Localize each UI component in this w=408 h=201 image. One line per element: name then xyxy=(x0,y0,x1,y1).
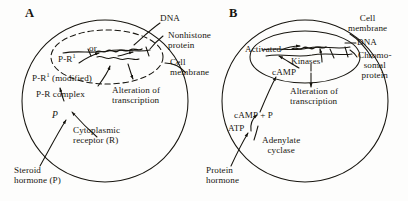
label-cell-membrane-a: Cellmembrane xyxy=(170,58,209,78)
label-alteration-transcription-b-text: Alteration oftranscription xyxy=(290,86,338,106)
label-chromosomal-protein-b-text: Chromo-somalprotein xyxy=(358,50,392,80)
label-protein-hormone-b: Proteinhormone xyxy=(206,166,239,186)
chromatin-strand-a3 xyxy=(97,57,139,60)
chromatin-tick-b1 xyxy=(345,47,348,57)
label-dna-a: DNA xyxy=(160,14,180,24)
label-alteration-transcription-a: Alteration oftranscription xyxy=(112,86,160,106)
label-pr1-modified-a-tail: (modified) xyxy=(50,73,92,83)
label-or-a: or xyxy=(89,44,97,54)
label-cell-membrane-b: Cellmembrane xyxy=(348,14,387,34)
chromatin-tick-a1 xyxy=(146,47,149,56)
panel-letter-a: A xyxy=(25,9,34,19)
label-activated-b: Activated xyxy=(245,45,281,55)
label-chromosomal-protein-b: Chromo-somalprotein xyxy=(358,51,392,80)
figure-container: A DNA Nonhistoneprotein Cellmembrane or … xyxy=(0,0,408,201)
label-kinases-b: Kinases xyxy=(291,57,321,67)
label-camp-plus-p-b: cAMP + P xyxy=(234,111,273,121)
cell-outline-a xyxy=(22,20,188,182)
label-nonhistone-protein-a-text: Nonhistoneprotein xyxy=(168,30,211,50)
label-steroid-hormone-a: Steroidhormone (P) xyxy=(14,166,61,186)
label-atp-b: ATP xyxy=(228,124,244,134)
label-p-italic-a: P xyxy=(52,110,58,120)
chromatin-tick-b2 xyxy=(330,49,334,58)
label-cytoplasmic-receptor-a: Cytoplasmicreceptor (R) xyxy=(73,126,120,146)
label-pr-complex-a: P-R complex xyxy=(36,90,85,100)
label-pr1-modified-a-text: P-R xyxy=(32,73,46,83)
label-pr1-modified-a: P-R1 (modified) xyxy=(32,74,92,84)
label-alteration-transcription-a-text: Alteration oftranscription xyxy=(112,85,160,105)
label-protein-hormone-b-text: Proteinhormone xyxy=(206,165,239,185)
arrow-modified-to-nucleus xyxy=(98,66,110,86)
label-alteration-transcription-b: Alteration oftranscription xyxy=(290,87,338,107)
label-camp-b: cAMP xyxy=(272,68,296,78)
label-nonhistone-protein-a: Nonhistoneprotein xyxy=(168,31,211,51)
label-adenylate-cyclase-b-text: Adenylatecyclase xyxy=(262,135,300,155)
label-cell-membrane-a-text: Cellmembrane xyxy=(170,57,209,77)
leader-chromosomal-b xyxy=(350,50,357,57)
label-steroid-hormone-a-text: Steroidhormone (P) xyxy=(14,165,61,185)
arrow-steroid-entry xyxy=(40,120,66,166)
label-adenylate-cyclase-b: Adenylatecyclase xyxy=(262,136,300,156)
arrow-pr1-to-chromatin xyxy=(79,53,99,63)
label-cytoplasmic-receptor-a-text: Cytoplasmicreceptor (R) xyxy=(73,125,120,145)
arrow-alteration-a xyxy=(128,64,133,79)
label-pr1-a-text: P-R xyxy=(58,54,72,64)
arrow-protein-hormone xyxy=(231,133,248,166)
label-dna-b: DNA xyxy=(357,38,377,48)
label-pr1-a-sup: 1 xyxy=(72,52,75,59)
panel-letter-b: B xyxy=(229,9,238,19)
arrow-or-branch xyxy=(118,52,133,56)
pointer-adenylate-cyclase xyxy=(254,126,258,140)
label-pr1-a: P-R1 xyxy=(58,55,76,65)
label-cell-membrane-b-text: Cellmembrane xyxy=(348,13,387,33)
arrow-camp-up xyxy=(260,77,276,112)
